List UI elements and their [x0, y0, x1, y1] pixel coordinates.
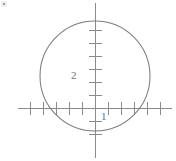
y-axis-group [89, 3, 102, 158]
y-axis-tick-label-2: 2 [71, 70, 77, 81]
coordinate-plane-plot [0, 0, 176, 161]
x-axis-tick-label-1: 1 [101, 111, 107, 122]
figure-canvas: 2 1 [0, 0, 176, 161]
